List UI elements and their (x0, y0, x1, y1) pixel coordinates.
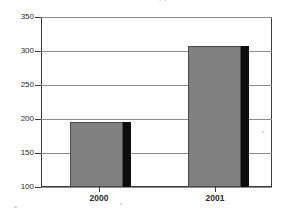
bar-2001-shadow (241, 46, 249, 187)
y-tick-150 (35, 153, 41, 154)
bar-2000 (70, 122, 123, 187)
x-axis-label-2001: 2001 (185, 194, 245, 203)
x-tick-2000 (99, 187, 100, 192)
scan-speckle (262, 131, 264, 133)
y-axis-label-300: 300 (8, 47, 34, 55)
y-axis-label-200: 200 (8, 115, 34, 123)
bar-2001 (188, 46, 241, 187)
x-tick-2001 (215, 187, 216, 192)
y-tick-100 (35, 187, 41, 188)
y-axis-label-100: 100 (8, 183, 34, 191)
bar-chart: 350 300 250 200 150 100 2000 2001 (0, 0, 285, 223)
chart-screenshot: ( ) 350 300 250 200 150 100 (0, 0, 285, 223)
scan-speckle (120, 203, 122, 205)
y-axis-label-250: 250 (8, 81, 34, 89)
y-tick-200 (35, 119, 41, 120)
gridline-350 (41, 17, 272, 18)
y-tick-350 (35, 17, 41, 18)
scan-speckle (14, 206, 17, 208)
y-tick-300 (35, 51, 41, 52)
y-axis-label-150: 150 (8, 149, 34, 157)
bar-2000-shadow (123, 122, 131, 187)
gridline-100 (41, 187, 272, 188)
y-axis-label-350: 350 (8, 13, 34, 21)
y-tick-250 (35, 85, 41, 86)
x-axis-label-2000: 2000 (69, 194, 129, 203)
